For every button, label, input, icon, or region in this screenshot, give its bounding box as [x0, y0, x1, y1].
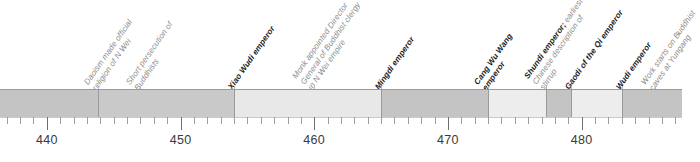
axis-tick-minor: [595, 117, 596, 124]
timeline-segment: [488, 90, 546, 117]
axis-tick-minor: [301, 117, 302, 124]
axis-tick-minor: [555, 117, 556, 124]
timeline-bar: [0, 89, 682, 117]
axis-tick-minor: [328, 117, 329, 124]
timeline-segment: [571, 90, 622, 117]
axis-tick-minor: [114, 117, 115, 124]
axis-tick-label: 440: [36, 133, 58, 147]
axis-tick-minor: [288, 117, 289, 124]
axis-tick-minor: [234, 117, 235, 124]
event-label: Monk appointed DirectorGeneral of Buddhi…: [291, 0, 371, 92]
axis-tick-minor: [675, 117, 676, 124]
axis-tick-major: [47, 117, 48, 130]
reign-label: Xiao Wudi emperor: [226, 25, 277, 92]
axis-tick-label: 460: [303, 133, 325, 147]
axis-tick-minor: [167, 117, 168, 124]
axis-tick-minor: [7, 117, 8, 124]
axis-tick-minor: [60, 117, 61, 124]
reign-label: Mingdi emperor: [373, 36, 416, 92]
axis-tick-minor: [221, 117, 222, 124]
axis-tick-minor: [394, 117, 395, 124]
axis-tick-minor: [194, 117, 195, 124]
axis-tick-minor: [662, 117, 663, 124]
axis-tick-minor: [154, 117, 155, 124]
reign-label: Cang Wu Wangemperor: [472, 32, 522, 92]
axis-tick-minor: [127, 117, 128, 124]
timeline-axis: 440450460470480: [0, 117, 682, 162]
axis-tick-minor: [247, 117, 248, 124]
axis-tick-minor: [381, 117, 382, 124]
timeline-segment: [546, 90, 571, 117]
axis-tick-minor: [542, 117, 543, 124]
axis-tick-minor: [568, 117, 569, 124]
axis-tick-label: 470: [437, 133, 459, 147]
axis-tick-minor: [515, 117, 516, 124]
axis-tick-minor: [20, 117, 21, 124]
axis-tick-minor: [341, 117, 342, 124]
axis-tick-minor: [649, 117, 650, 124]
reign-label: Shundi emperor; earliestChinese descript…: [522, 0, 600, 92]
timeline-segment: [622, 90, 682, 117]
axis-tick-major: [448, 117, 449, 130]
axis-tick-minor: [140, 117, 141, 124]
timeline-segment: [381, 90, 488, 117]
axis-tick-minor: [501, 117, 502, 124]
axis-tick-minor: [100, 117, 101, 124]
axis-tick-minor: [74, 117, 75, 124]
axis-tick-label: 480: [571, 133, 593, 147]
timeline-segment: [0, 90, 98, 117]
axis-tick-minor: [461, 117, 462, 124]
axis-tick-major: [582, 117, 583, 130]
axis-tick-label: 450: [170, 133, 192, 147]
axis-tick-minor: [488, 117, 489, 124]
axis-tick-minor: [608, 117, 609, 124]
axis-tick-minor: [435, 117, 436, 124]
axis-tick-major: [181, 117, 182, 130]
axis-end-marker: •: [678, 30, 680, 37]
axis-tick-minor: [368, 117, 369, 124]
annotation-layer: Daoism made officialreligion of N WeiSho…: [0, 0, 682, 92]
axis-tick-minor: [207, 117, 208, 124]
axis-tick-minor: [354, 117, 355, 124]
timeline-segment: [98, 90, 234, 117]
axis-tick-minor: [87, 117, 88, 124]
axis-tick-major: [314, 117, 315, 130]
axis-tick-minor: [408, 117, 409, 124]
axis-tick-minor: [622, 117, 623, 124]
axis-tick-minor: [475, 117, 476, 124]
axis-tick-minor: [635, 117, 636, 124]
axis-tick-minor: [528, 117, 529, 124]
timeline-segment: [234, 90, 381, 117]
axis-tick-minor: [33, 117, 34, 124]
axis-tick-minor: [421, 117, 422, 124]
axis-tick-minor: [274, 117, 275, 124]
axis-tick-minor: [261, 117, 262, 124]
